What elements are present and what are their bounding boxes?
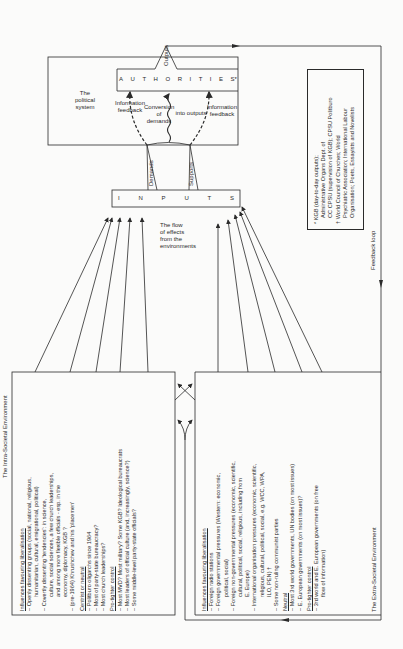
outputs-label: Outputs <box>163 45 170 66</box>
supports-label: Supports <box>188 162 195 186</box>
demands-label: Demands <box>148 160 155 186</box>
extra-societal-text: Influences favouring liberalisation – Fo… <box>199 461 327 611</box>
intra-societal-title: The Intra-Societal Environment <box>2 395 9 478</box>
inputs-label: I N P U T S <box>118 195 234 202</box>
extra-societal-title: The Extra-Societal Environment <box>371 527 378 612</box>
authorities-box <box>117 46 238 91</box>
into-outputs-label: into outputs <box>173 110 209 117</box>
intra-societal-text: Influences favouring liberalisation – Op… <box>17 449 138 611</box>
political-system-title: The political system <box>55 90 115 111</box>
info-feedback-right: Information feedback <box>205 104 239 118</box>
conversion-label: Conversion of demands <box>144 104 174 125</box>
feedback-loop-label: Feedback loop <box>370 231 377 270</box>
footnotes: * KGB (day-to-day outputs); Administrati… <box>313 97 356 224</box>
authorities-label: A U T H O R I T I E S* <box>119 76 237 83</box>
flow-label: The flow of effects from the environment… <box>160 222 200 250</box>
